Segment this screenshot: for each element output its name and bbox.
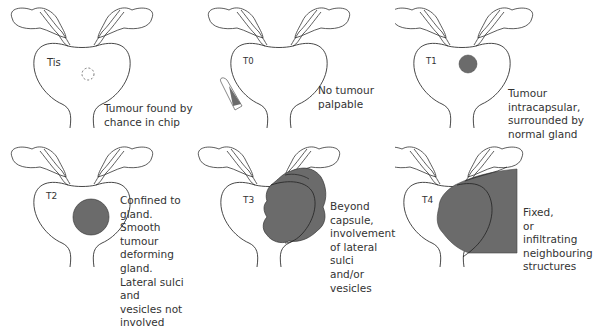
tumour-extracapsular-mass [263,168,326,242]
stage-label: T0 [243,56,254,66]
stage-label: T2 [46,191,57,201]
panel-t3: T3 Beyond capsule, involvement of latera… [197,145,395,289]
stage-description: Tumour found by chance in chip [104,102,193,129]
panel-t2: T2 Confined to gland. Smooth tumour defo… [0,145,198,289]
panel-tis: Tis Tumour found by chance in chip [0,0,198,144]
stage-description: Tumour intracapsular, surrounded by norm… [508,87,584,141]
tumour-fixed-mass [437,169,517,253]
stage-label: T4 [422,195,433,205]
finger-icon [220,78,242,110]
stage-description: Beyond capsule, involvement of lateral s… [330,200,395,295]
panel-t1: T1 Tumour intracapsular, surrounded by n… [395,0,593,144]
tumour-dashed-circle [82,68,94,80]
stage-label: Tis [47,57,61,68]
panel-t0: T0 No tumour palpable [197,0,395,144]
tumour-small-circle [459,55,477,73]
stage-label: T1 [426,56,437,66]
prostate-gland-diagram [197,0,395,144]
panel-t4: T4 Fixed, or infiltrating neighbouring s… [395,145,593,289]
stage-description: Confined to gland. Smooth tumour deformi… [120,194,198,330]
stage-description: No tumour palpable [318,84,374,111]
stage-description: Fixed, or infiltrating neighbouring stru… [523,206,593,274]
stage-label: T3 [243,195,254,205]
tumour-large-circle [73,199,109,235]
